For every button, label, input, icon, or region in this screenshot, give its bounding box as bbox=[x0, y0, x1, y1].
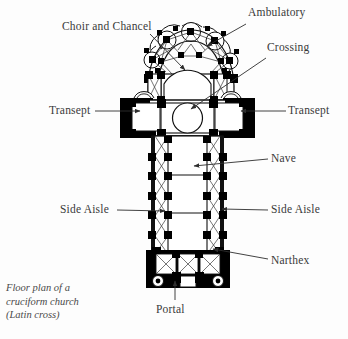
leader-side-aisle-left bbox=[117, 210, 165, 211]
label-transept-left: Transept bbox=[49, 104, 90, 116]
label-crossing: Crossing bbox=[267, 41, 310, 53]
label-transept-right: Transept bbox=[288, 104, 329, 116]
label-side-aisle-left: Side Aisle bbox=[60, 203, 109, 215]
leader-choir-and-chancel bbox=[150, 34, 185, 70]
label-portal: Portal bbox=[156, 303, 185, 315]
leader-ambulatory bbox=[207, 24, 246, 46]
figure-root: Ambulatory Choir and Chancel Crossing Tr… bbox=[0, 0, 348, 339]
leader-side-aisle-right bbox=[222, 209, 268, 210]
label-narthex: Narthex bbox=[271, 254, 309, 266]
label-nave: Nave bbox=[271, 152, 296, 164]
label-ambulatory: Ambulatory bbox=[248, 6, 306, 18]
leader-narthex bbox=[213, 249, 268, 259]
figure-caption: Floor plan of a cruciform church (Latin … bbox=[6, 281, 79, 322]
leader-nave bbox=[194, 159, 268, 166]
label-choir-and-chancel: Choir and Chancel bbox=[62, 20, 152, 32]
leader-crossing bbox=[191, 58, 266, 109]
label-side-aisle-right: Side Aisle bbox=[271, 203, 320, 215]
